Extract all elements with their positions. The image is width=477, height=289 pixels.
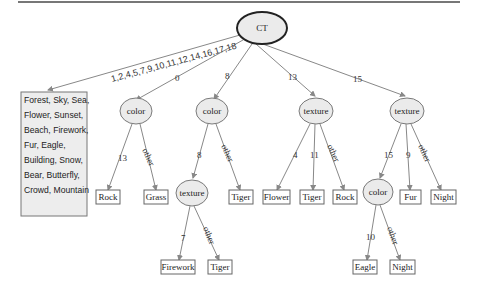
edge-label: 8 <box>197 150 202 160</box>
leaf-tiger: Tiger <box>300 190 324 204</box>
leaf-label: Grass <box>146 192 167 202</box>
leaf-night: Night <box>431 190 456 204</box>
leaf-firework: Firework <box>161 260 195 274</box>
edge-label: other <box>140 147 157 168</box>
edge-label-0: 0 <box>175 73 180 83</box>
decision-tree-diagram: 1,2,4,5,7,9,10,11,12,14,16,17,18 0 8 13 … <box>0 0 477 289</box>
big-leaf-box: Forest, Sky, Sea, Flower, Sunset, Beach,… <box>21 92 89 216</box>
big-leaf-line: Flower, Sunset, <box>24 110 83 120</box>
edge-label: 13 <box>118 153 128 163</box>
node-label: texture <box>304 106 329 116</box>
node-label: color <box>369 187 388 197</box>
edge-label: other <box>201 225 217 246</box>
big-leaf-line: Fur, Eagle, <box>24 140 66 150</box>
leaf-label: Night <box>392 262 413 272</box>
edge-label: other <box>416 143 433 164</box>
root-node: CT <box>237 12 287 44</box>
node-label: color <box>203 106 222 116</box>
edge-label: 10 <box>366 232 376 242</box>
leaf-label: Rock <box>336 192 355 202</box>
leaf-label: Firework <box>162 262 195 272</box>
node-label: texture <box>395 106 420 116</box>
leaf-rock: Rock <box>333 190 357 204</box>
leaf-night: Night <box>390 260 415 274</box>
leaf-label: Rock <box>99 192 118 202</box>
edge-label: other <box>385 225 401 246</box>
leaf-label: Tiger <box>231 192 250 202</box>
edge-label: other <box>325 143 342 164</box>
leaf-grass: Grass <box>144 190 168 204</box>
leaf-label: Flower <box>264 192 290 202</box>
edge-label: 9 <box>406 150 411 160</box>
leaf-label: Night <box>433 192 454 202</box>
leaf-tiger: Tiger <box>229 190 253 204</box>
node-label: color <box>127 106 146 116</box>
leaf-tiger: Tiger <box>208 260 232 274</box>
big-leaf-line: Building, Snow, <box>24 155 83 165</box>
leaf-fur: Fur <box>400 190 421 204</box>
edge-label: 4 <box>293 150 298 160</box>
node-texture-15: texture <box>390 98 424 124</box>
big-leaf-line: Forest, Sky, Sea, <box>24 95 89 105</box>
node-texture-13: texture <box>299 98 333 124</box>
leaf-label: Fur <box>404 192 417 202</box>
leaf-label: Tiger <box>210 262 229 272</box>
node-color-0: color <box>120 98 152 124</box>
big-leaf-line: Crowd, Mountain <box>24 185 89 195</box>
edge-label-15: 15 <box>353 74 363 84</box>
big-leaf-line: Bear, Butterfly, <box>24 170 80 180</box>
edge-label: other <box>219 143 236 164</box>
node-label: texture <box>180 188 205 198</box>
leaf-flower: Flower <box>263 190 290 204</box>
leaf-eagle: Eagle <box>353 260 377 274</box>
edge-label-big-leaf: 1,2,4,5,7,9,10,11,12,14,16,17,18 <box>110 41 238 84</box>
node-color-15: color <box>363 179 393 205</box>
big-leaf-line: Beach, Firework, <box>24 125 88 135</box>
edge-label: 11 <box>310 150 319 160</box>
leaf-label: Tiger <box>302 192 321 202</box>
leaf-rock: Rock <box>96 190 120 204</box>
node-texture-8: texture <box>176 180 208 206</box>
edge-label: 15 <box>384 150 394 160</box>
node-color-8: color <box>196 98 228 124</box>
edge-label-13: 13 <box>288 72 298 82</box>
edge-label-8: 8 <box>225 71 230 81</box>
leaf-label: Eagle <box>355 262 376 272</box>
edge-label: 7 <box>181 233 186 243</box>
root-label: CT <box>256 23 268 33</box>
